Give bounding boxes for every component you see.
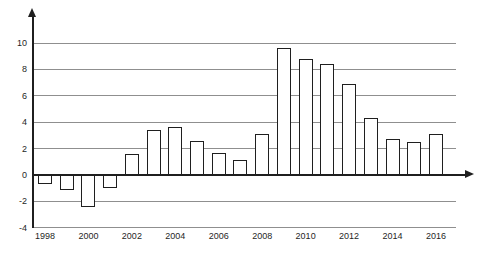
y-tick-label-4: 4 [0, 116, 27, 128]
x-tick-label-2016: 2016 [421, 231, 451, 242]
gridline-y-4 [33, 122, 456, 123]
gridline-y-6 [33, 95, 456, 96]
bar-2012 [342, 84, 356, 175]
bar-2005 [190, 141, 204, 175]
bar-chart: 1086420-2-419982000200220042006200820102… [0, 0, 491, 254]
x-tick-label-2002: 2002 [117, 231, 147, 242]
bar-2003 [147, 130, 161, 175]
x-tick-label-2012: 2012 [334, 231, 364, 242]
y-tick-label--4: -4 [0, 222, 27, 234]
x-axis-line [33, 174, 466, 176]
bar-2015 [407, 142, 421, 175]
bar-1999 [60, 175, 74, 190]
bar-2000 [81, 175, 95, 207]
y-axis-arrow-icon [28, 8, 36, 17]
x-tick-label-2010: 2010 [291, 231, 321, 242]
x-tick-label-2008: 2008 [247, 231, 277, 242]
bar-2006 [212, 153, 226, 175]
x-tick-label-2000: 2000 [73, 231, 103, 242]
x-tick-label-1998: 1998 [30, 231, 60, 242]
bar-2010 [299, 59, 313, 175]
gridline-y--4 [33, 227, 456, 228]
bar-2007 [233, 160, 247, 175]
bar-1998 [38, 175, 52, 184]
y-tick-label-10: 10 [0, 37, 27, 49]
x-tick-label-2004: 2004 [160, 231, 190, 242]
bar-2002 [125, 154, 139, 175]
y-axis-line [32, 17, 34, 228]
bar-2013 [364, 118, 378, 175]
x-axis-arrow-icon [465, 170, 474, 178]
gridline-y-10 [33, 43, 456, 44]
bar-2004 [168, 127, 182, 175]
x-tick-label-2014: 2014 [378, 231, 408, 242]
bar-2008 [255, 134, 269, 175]
gridline-y-8 [33, 69, 456, 70]
bar-2001 [103, 175, 117, 188]
bar-2016 [429, 134, 443, 175]
bar-2014 [386, 139, 400, 175]
bar-2011 [320, 64, 334, 175]
y-tick-label-8: 8 [0, 63, 27, 75]
y-tick-label--2: -2 [0, 195, 27, 207]
x-tick-label-2006: 2006 [204, 231, 234, 242]
y-tick-label-2: 2 [0, 143, 27, 155]
y-tick-label-6: 6 [0, 90, 27, 102]
bar-2009 [277, 48, 291, 175]
y-tick-label-0: 0 [0, 169, 27, 181]
gridline-y--2 [33, 201, 456, 202]
